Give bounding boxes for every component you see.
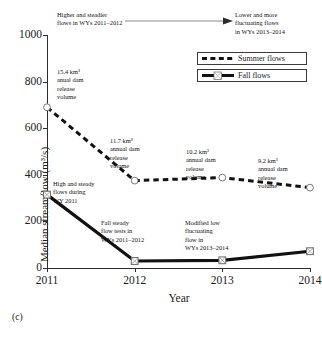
x-axis-line xyxy=(47,268,311,269)
y-tick-label-1000: 1000 xyxy=(19,29,42,41)
y-tick-label-600: 600 xyxy=(25,122,42,134)
legend-label-summer-flows: Summer flows xyxy=(238,55,285,63)
y-tick-label-200: 200 xyxy=(25,216,42,228)
x-tick-label-2013: 2013 xyxy=(211,275,234,287)
legend-entry-summer-flows: Summer flows xyxy=(197,52,307,65)
x-axis-title: Year xyxy=(47,292,311,304)
y-tick-label-800: 800 xyxy=(25,76,42,88)
annotation-higher-steadier: Higher and steadier flows in WYs 2011–20… xyxy=(57,11,123,28)
y-tick-label-0: 0 xyxy=(36,262,42,274)
annotation-volume-2011: 15.4 km³ anual dam release volume xyxy=(57,68,83,101)
x-tick-label-2012: 2012 xyxy=(123,275,146,287)
panel-label: (c) xyxy=(12,312,23,322)
legend-swatch-summer-flows xyxy=(201,53,235,64)
annotation-high-steady-flows: High and steady flows during WY 2011 xyxy=(53,180,95,205)
annotation-modified-low-flow: Modified low fluctuating flow in WYs 201… xyxy=(185,219,229,252)
figure-panel-c: Median streamflow (m³/s) 0 200 400 600 8… xyxy=(0,0,319,341)
x-tick-2014 xyxy=(310,268,311,272)
annotation-volume-2014: 9.2 km³ annual dam release volume xyxy=(258,157,288,190)
x-tick-2013 xyxy=(222,268,223,272)
x-tick-label-2011: 2011 xyxy=(36,275,59,287)
legend-swatch-fall-flows xyxy=(201,70,235,81)
x-tick-2012 xyxy=(135,268,136,272)
annotation-fall-steady-tests: Fall steady flow tests in WYs 2011–2012 xyxy=(101,219,144,244)
transition-arrow xyxy=(125,16,235,26)
annotation-lower-fluctuating: Lower and more fluctuating flows in WYs … xyxy=(235,11,285,36)
x-tick-label-2014: 2014 xyxy=(299,275,322,287)
y-tick-label-400: 400 xyxy=(25,169,42,181)
x-tick-2011 xyxy=(47,268,48,272)
annotation-volume-2013: 10.2 km³ annual dam release volume xyxy=(186,148,216,181)
legend-label-fall-flows: Fall flows xyxy=(238,72,270,80)
legend: Summer flows Fall flows xyxy=(197,52,307,86)
annotation-volume-2012: 11.7 km³ annual dam release volume xyxy=(110,137,140,170)
legend-entry-fall-flows: Fall flows xyxy=(197,69,307,82)
